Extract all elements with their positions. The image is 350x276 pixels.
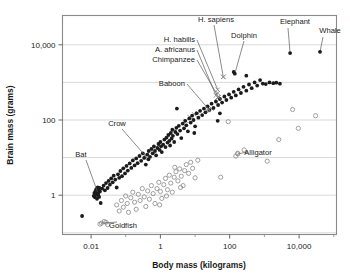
annotated-data-point (318, 50, 322, 54)
data-point (144, 163, 148, 167)
data-point (214, 100, 218, 104)
data-point (159, 140, 163, 144)
y-axis-title: Brain mass (grams) (5, 85, 15, 165)
data-point (152, 144, 156, 148)
data-point (242, 85, 246, 89)
data-point (212, 106, 216, 110)
data-point (200, 113, 204, 117)
annotated-data-point (96, 192, 100, 196)
annotation-label: H. sapiens (198, 15, 234, 24)
annotated-data-point (233, 72, 237, 76)
data-point (216, 103, 220, 107)
data-point (223, 95, 227, 99)
data-point (106, 186, 110, 190)
annotation-label: Dolphin (231, 31, 257, 40)
annotation-label: Crow (108, 119, 126, 128)
data-point (218, 111, 222, 115)
data-point (227, 93, 231, 97)
data-point (153, 149, 157, 153)
data-point (170, 128, 174, 132)
data-point (99, 201, 103, 205)
data-point (168, 144, 172, 148)
data-point (192, 118, 196, 122)
data-point (184, 123, 188, 127)
data-point (134, 157, 138, 161)
data-point (182, 126, 186, 130)
data-point (183, 119, 187, 123)
data-point (126, 169, 130, 173)
data-point (80, 214, 84, 218)
data-point (179, 136, 183, 140)
data-point (220, 101, 224, 105)
chart-canvas: 0.01110010,000110010,000 H. sapiensDolph… (0, 0, 350, 276)
data-point (142, 156, 146, 160)
annotation-label: Baboon (159, 79, 185, 88)
data-point (123, 172, 127, 176)
data-point (164, 145, 168, 149)
data-point (250, 86, 254, 90)
data-point (187, 117, 191, 121)
data-point (253, 81, 257, 85)
data-point (189, 121, 193, 125)
data-point (125, 164, 129, 168)
annotated-data-point (147, 157, 151, 161)
data-point (232, 90, 236, 94)
data-point (255, 84, 259, 88)
data-point (198, 109, 202, 113)
x-axis-tick-label: 10,000 (287, 242, 312, 251)
data-point (113, 178, 117, 182)
data-point (175, 107, 179, 111)
brain-vs-body-mass-scatter-chart: 0.01110010,000110010,000 H. sapiensDolph… (0, 0, 350, 276)
x-axis-tick-label: 1 (158, 242, 163, 251)
data-point (115, 186, 119, 190)
data-point (195, 111, 199, 115)
annotation-label: A. africanus (155, 45, 195, 54)
data-point (244, 74, 248, 78)
annotation-label: Alligator (244, 148, 272, 157)
data-point (116, 172, 120, 176)
x-axis-tick-label: 0.01 (83, 242, 99, 251)
data-point (197, 116, 201, 120)
annotated-data-point (288, 51, 292, 55)
data-point (112, 174, 116, 178)
data-point (171, 134, 175, 138)
data-point (202, 107, 206, 111)
data-point (97, 195, 101, 199)
data-point (264, 82, 268, 86)
data-point (237, 88, 241, 92)
data-point (190, 114, 194, 118)
annotation-label: Whale (319, 26, 341, 35)
data-point (192, 131, 196, 135)
data-point (129, 166, 133, 170)
data-point (268, 81, 272, 85)
data-point (136, 161, 140, 165)
data-point (160, 150, 164, 154)
annotation-label: Bat (75, 150, 87, 159)
y-axis-tick-label: 1 (51, 191, 56, 200)
data-point (186, 129, 190, 133)
data-point (274, 81, 278, 85)
data-point (131, 159, 135, 163)
data-point (178, 129, 182, 133)
data-point (139, 159, 143, 163)
data-point (210, 102, 214, 106)
data-point (172, 140, 176, 144)
annotation-label: Elephant (280, 17, 311, 26)
data-point (234, 94, 238, 98)
x-axis-tick-label: 100 (223, 242, 237, 251)
data-point (138, 154, 142, 158)
data-point (177, 124, 181, 128)
data-point (244, 89, 248, 93)
y-axis-tick-label: 100 (42, 116, 56, 125)
data-point (247, 83, 251, 87)
data-point (193, 124, 197, 128)
data-point (176, 132, 180, 136)
x-axis-title: Body mass (kilograms) (152, 260, 246, 270)
annotation-label: H. habilis (164, 35, 195, 44)
data-point (278, 82, 282, 86)
annotation-label: Goldfish (109, 221, 137, 230)
data-point (258, 78, 262, 82)
data-point (229, 96, 233, 100)
data-point (154, 153, 158, 157)
data-point (120, 174, 124, 178)
